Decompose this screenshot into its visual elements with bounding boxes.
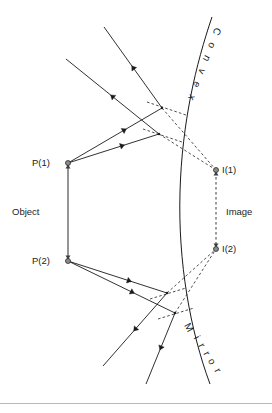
- reflection-point: [166, 292, 168, 294]
- mirror-letter-2: r: [196, 341, 208, 350]
- normal-lines-group: [143, 102, 194, 319]
- image-side-label: Image: [226, 206, 252, 217]
- virtual-rays-group: [159, 108, 216, 313]
- incident-ray-from-p1: [68, 134, 159, 163]
- ray-arrowheads-group: [109, 64, 164, 351]
- ray-diagram-figure: Convex Mirror P(1) P(2) I(1) I(2) Object…: [0, 0, 272, 413]
- ray-arrowhead: [126, 277, 132, 284]
- convex-letter-0: C: [211, 26, 224, 38]
- convex-letter-1: o: [206, 41, 219, 51]
- ray-arrowhead: [157, 345, 164, 351]
- ray-arrowhead: [129, 289, 135, 296]
- virtual-ray-to-i1: [159, 134, 216, 170]
- mirror-letter-3: r: [201, 349, 213, 358]
- ray-arrowhead: [121, 126, 128, 133]
- point-label-i1: I(1): [222, 164, 236, 175]
- point-marker-p2: [66, 259, 71, 264]
- point-marker-i1: [214, 168, 219, 173]
- virtual-ray-to-i2: [175, 249, 216, 313]
- incident-ray-from-p1: [68, 108, 162, 163]
- reflection-point: [158, 133, 160, 135]
- footer-divider: [0, 403, 272, 404]
- virtual-ray-to-i2: [167, 249, 216, 293]
- object-side-label: Object: [12, 206, 40, 217]
- labelled-points-group: [66, 161, 219, 264]
- point-marker-i2: [214, 247, 219, 252]
- convex-letter-2: n: [201, 54, 213, 64]
- mirror-curve-label: Mirror: [182, 321, 224, 375]
- point-label-p1: P(1): [32, 157, 50, 168]
- mirror-letter-4: o: [206, 356, 219, 366]
- optics-diagram-svg: Convex Mirror P(1) P(2) I(1) I(2) Object…: [0, 0, 272, 413]
- convex-letter-3: v: [196, 67, 208, 77]
- reflected-rays-group: [66, 27, 175, 384]
- mirror-letter-1: i: [192, 334, 203, 341]
- ray-arrowhead: [129, 64, 136, 71]
- incident-ray-from-p2: [68, 261, 167, 293]
- mirror-normal-line: [143, 129, 182, 142]
- point-marker-p1: [66, 161, 71, 166]
- virtual-ray-to-i1: [162, 108, 216, 170]
- reflection-point: [174, 312, 176, 314]
- reflection-point: [161, 107, 163, 109]
- incident-ray-from-p2: [68, 261, 175, 313]
- incident-rays-group: [68, 108, 175, 313]
- point-label-p2: P(2): [32, 255, 50, 266]
- ray-arrowhead: [120, 142, 126, 149]
- convex-letter-5: x: [186, 93, 198, 103]
- mirror-letter-5: r: [212, 366, 224, 375]
- reflection-points-group: [158, 107, 176, 314]
- point-label-i2: I(2): [222, 243, 236, 254]
